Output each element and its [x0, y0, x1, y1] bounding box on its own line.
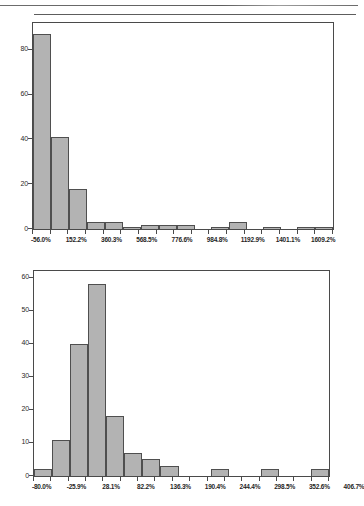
x-axis-tick-mark [156, 230, 157, 234]
x-axis-tick-mark [259, 477, 260, 481]
x-axis-tick-mark [120, 477, 121, 481]
histogram-bar [315, 227, 333, 229]
histogram-chart-top: 020406080 -56.0%152.2%360.3%568.5%776.6%… [0, 18, 358, 254]
x-axis-tick-mark [332, 230, 333, 234]
x-axis-tick-mark [241, 477, 242, 481]
histogram-bar [211, 227, 229, 229]
x-axis-tick-mark [328, 477, 329, 481]
histogram-bar [87, 222, 105, 229]
x-axis-tick-mark [154, 477, 155, 481]
x-axis-tick-label: 568.5% [136, 235, 157, 244]
x-axis-tick-mark [173, 230, 174, 234]
x-axis-tick-mark [226, 230, 227, 234]
x-axis-tick-mark [85, 230, 86, 234]
x-axis-ticks-bottom [33, 477, 330, 481]
x-axis-tick-label: 28.1% [102, 482, 119, 491]
x-axis-tick-label: 1401.1% [276, 235, 300, 244]
x-axis-tick-mark [311, 477, 312, 481]
x-axis-tick-mark [102, 477, 103, 481]
x-axis-tick-mark [191, 230, 192, 234]
histogram-bar [211, 469, 229, 476]
x-axis-tick-mark [50, 230, 51, 234]
x-axis-tick-label: 298.5% [274, 482, 295, 491]
x-axis-tick-label: 190.4% [205, 482, 226, 491]
x-axis-ticks-top [32, 230, 334, 234]
x-axis-tick-label: -25.9% [67, 482, 86, 491]
y-axis-top: 020406080 [0, 18, 32, 230]
x-axis-tick-label: -80.0% [32, 482, 51, 491]
x-axis-tick-mark [103, 230, 104, 234]
x-axis-labels-top: -56.0%152.2%360.3%568.5%776.6%984.8%1192… [32, 235, 334, 247]
x-axis-tick-mark [33, 477, 34, 481]
histogram-bar [311, 469, 329, 476]
histogram-chart-bottom: 0102030405060 -80.0%-25.9%28.1%82.2%136.… [0, 262, 358, 500]
histogram-bar [70, 344, 88, 476]
plot-area-top [32, 22, 334, 230]
histogram-bar [159, 225, 177, 229]
histogram-bar [69, 189, 87, 229]
x-axis-tick-label: 82.2% [137, 482, 154, 491]
x-axis-tick-label: 406.7% [344, 482, 364, 491]
histogram-bar [124, 453, 142, 476]
x-axis-tick-label: 244.4% [239, 482, 260, 491]
histogram-bar [105, 222, 123, 229]
x-axis-tick-mark [32, 230, 33, 234]
x-axis-tick-mark [189, 477, 190, 481]
x-axis-tick-mark [85, 477, 86, 481]
histogram-bar [33, 34, 51, 229]
x-axis-labels-bottom: -80.0%-25.9%28.1%82.2%136.3%190.4%244.4%… [33, 482, 330, 494]
x-axis-tick-mark [68, 477, 69, 481]
x-axis-tick-label: 152.2% [66, 235, 87, 244]
x-axis-tick-label: 1609.2% [311, 235, 335, 244]
x-axis-tick-mark [261, 230, 262, 234]
x-axis-tick-mark [244, 230, 245, 234]
x-axis-tick-mark [297, 230, 298, 234]
histogram-bar [263, 227, 281, 229]
histogram-bar [160, 466, 178, 476]
histogram-bar [229, 222, 247, 229]
x-axis-tick-label: 136.3% [170, 482, 191, 491]
page-divider-rule-second [34, 14, 356, 15]
x-axis-tick-mark [314, 230, 315, 234]
x-axis-tick-mark [137, 477, 138, 481]
histogram-bar [51, 137, 69, 229]
x-axis-tick-label: 1192.9% [241, 235, 265, 244]
histogram-bar [88, 284, 106, 476]
histogram-bar [142, 459, 160, 476]
histogram-bar [34, 469, 52, 476]
histogram-bar [141, 225, 159, 229]
x-axis-tick-label: 984.8% [207, 235, 228, 244]
x-axis-tick-mark [279, 230, 280, 234]
histogram-bar [177, 225, 195, 229]
histogram-bar [106, 416, 124, 476]
y-axis-bottom: 0102030405060 [0, 262, 33, 477]
x-axis-tick-mark [172, 477, 173, 481]
plot-area-bottom [33, 270, 330, 477]
histogram-bar [123, 227, 141, 229]
bar-series-top [33, 23, 333, 229]
histogram-bar [297, 227, 315, 229]
x-axis-tick-label: 352.6% [309, 482, 330, 491]
x-axis-tick-label: 776.6% [172, 235, 193, 244]
x-axis-tick-mark [120, 230, 121, 234]
bar-series-bottom [34, 271, 329, 476]
histogram-bar [261, 469, 279, 476]
x-axis-tick-label: -56.0% [31, 235, 50, 244]
x-axis-tick-mark [67, 230, 68, 234]
x-axis-tick-mark [293, 477, 294, 481]
x-axis-tick-mark [138, 230, 139, 234]
x-axis-tick-label: 360.3% [101, 235, 122, 244]
x-axis-tick-mark [224, 477, 225, 481]
x-axis-tick-mark [207, 477, 208, 481]
x-axis-tick-mark [208, 230, 209, 234]
page-divider-rule [0, 5, 358, 6]
x-axis-tick-mark [276, 477, 277, 481]
x-axis-tick-mark [50, 477, 51, 481]
histogram-bar [52, 440, 70, 476]
